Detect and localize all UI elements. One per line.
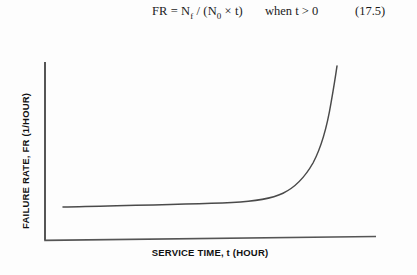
equation-condition: when t > 0 [265,4,318,19]
equation-divider: / ( [193,4,207,18]
equation-number: (17.5) [355,4,385,19]
equation-denominator-symbol: N [208,4,217,18]
equation-lhs: FR = [152,4,181,18]
x-axis-label: SERVICE TIME, t (HOUR) [152,247,269,258]
equation-row: FR = Nf / (N0 × t) when t > 0 (17.5) [0,4,417,24]
equation-denominator-rest: × t) [221,4,242,18]
equation-formula: FR = Nf / (N0 × t) [152,4,243,19]
figure-page: FR = Nf / (N0 × t) when t > 0 (17.5) FAI… [0,0,417,275]
equation-numerator-symbol: N [181,4,190,18]
failure-rate-chart: FAILURE RATE, FR (1/HOUR) SERVICE TIME, … [0,55,417,275]
y-axis-label: FAILURE RATE, FR (1/HOUR) [20,93,31,229]
failure-rate-curve [63,66,337,207]
x-axis-line [44,237,376,241]
